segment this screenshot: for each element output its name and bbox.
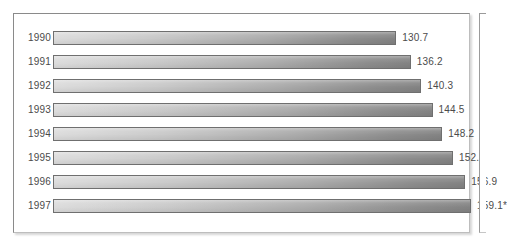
bar-track: 140.3 [53, 79, 471, 93]
value-label-1991: 136.2 [417, 55, 443, 69]
bar-track: 159.1* [53, 199, 471, 213]
bar-track: 148.2 [53, 127, 471, 141]
value-label-1994: 148.2 [448, 127, 474, 141]
bar-track: 144.5 [53, 103, 471, 117]
bar-1991 [53, 55, 411, 69]
bar-track: 156.9 [53, 175, 471, 189]
bar-row: 1995 152.4 [14, 151, 471, 165]
bar-row: 1997 159.1* [14, 199, 471, 213]
bar-row: 1996 156.9 [14, 175, 471, 189]
value-label-1990: 130.7 [402, 31, 428, 45]
category-label-1990: 1990 [14, 31, 51, 45]
bar-row: 1993 144.5 [14, 103, 471, 117]
bar-1997 [53, 199, 471, 213]
category-label-1995: 1995 [14, 151, 51, 165]
bar-chart-plot-area: 1990 130.7 1991 136.2 1992 140.3 1993 [14, 31, 471, 227]
bar-track: 136.2 [53, 55, 471, 69]
bar-row: 1994 148.2 [14, 127, 471, 141]
bar-track: 130.7 [53, 31, 471, 45]
bar-1992 [53, 79, 421, 93]
category-label-1992: 1992 [14, 79, 51, 93]
adjacent-panel-cropped-edge [479, 13, 486, 233]
category-label-1996: 1996 [14, 175, 51, 189]
bar-row: 1991 136.2 [14, 55, 471, 69]
bar-1990 [53, 31, 396, 45]
chart-frame: 1990 130.7 1991 136.2 1992 140.3 1993 [13, 13, 470, 233]
bar-row: 1990 130.7 [14, 31, 471, 45]
bar-row: 1992 140.3 [14, 79, 471, 93]
bar-1995 [53, 151, 453, 165]
category-label-1997: 1997 [14, 199, 51, 213]
value-label-1992: 140.3 [427, 79, 453, 93]
bar-1996 [53, 175, 465, 189]
category-label-1993: 1993 [14, 103, 51, 117]
category-label-1991: 1991 [14, 55, 51, 69]
value-label-1993: 144.5 [439, 103, 465, 117]
bar-track: 152.4 [53, 151, 471, 165]
category-label-1994: 1994 [14, 127, 51, 141]
bar-1993 [53, 103, 433, 117]
bar-1994 [53, 127, 442, 141]
